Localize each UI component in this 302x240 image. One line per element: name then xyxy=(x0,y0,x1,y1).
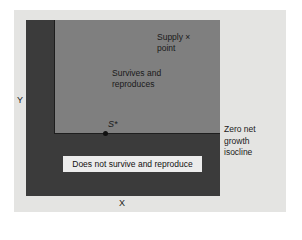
supply-point-label-line1: Supply × xyxy=(157,32,190,43)
isocline-label-line3: isocline xyxy=(224,147,256,159)
isocline-label-line1: Zero net xyxy=(224,124,256,136)
y-axis-label: Y xyxy=(17,95,23,105)
isocline-label: Zero net growth isocline xyxy=(224,124,256,159)
survives-label-line1: Survives and xyxy=(112,68,161,79)
survives-label-line2: reproduces xyxy=(112,79,155,90)
s-star-label: S* xyxy=(108,119,118,130)
supply-point-label-line2: point xyxy=(157,43,175,54)
s-star-point-icon xyxy=(103,131,108,136)
isocline-label-line2: growth xyxy=(224,136,256,148)
not-survive-label: Does not survive and reproduce xyxy=(63,156,202,172)
x-axis-label: X xyxy=(119,198,125,208)
